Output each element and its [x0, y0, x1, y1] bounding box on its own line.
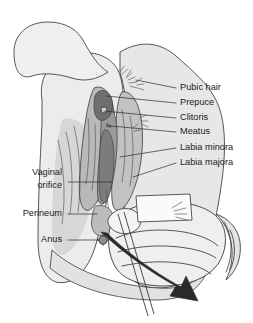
label-vaginal-orifice-line1: Vaginal [32, 167, 62, 177]
anatomy-figure: Pubic hair Prepuce Clitoris Meatus Labia… [0, 0, 253, 323]
glove-flap [136, 194, 192, 222]
label-clitoris: Clitoris [180, 112, 208, 122]
label-perineum: Perineum [23, 208, 63, 218]
clitoris-marker [101, 107, 107, 113]
anus-marker [99, 236, 107, 244]
label-vaginal-orifice-line2: orifice [37, 180, 62, 190]
label-labia-majora: Labia majora [180, 157, 234, 167]
illustration-canvas: Pubic hair Prepuce Clitoris Meatus Labia… [0, 0, 253, 323]
label-prepuce: Prepuce [180, 97, 214, 107]
abdominal-fold [14, 22, 108, 80]
clitoris-prepuce [94, 90, 113, 120]
label-pubic-hair: Pubic hair [180, 82, 221, 92]
label-labia-minora: Labia minora [180, 142, 234, 152]
label-meatus: Meatus [180, 126, 211, 136]
label-anus: Anus [41, 234, 62, 244]
